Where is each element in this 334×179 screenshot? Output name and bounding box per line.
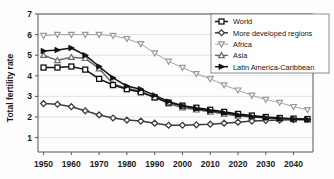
- data-point-marker: [166, 122, 172, 128]
- data-point-marker: [110, 115, 116, 121]
- chart-legend: WorldMore developed regionsAfricaAsiaLat…: [211, 14, 329, 73]
- data-point-marker: [68, 104, 74, 110]
- x-axis-tick-label: 1990: [145, 159, 164, 169]
- y-axis-tick-label: 1: [27, 133, 32, 143]
- data-point-marker: [138, 118, 144, 124]
- data-point-marker: [69, 64, 74, 69]
- legend-label: Africa: [233, 40, 253, 49]
- data-point-marker: [138, 42, 144, 47]
- data-point-marker: [221, 83, 227, 88]
- data-point-marker: [207, 77, 213, 82]
- data-point-marker: [180, 65, 186, 70]
- data-point-marker: [277, 100, 283, 105]
- data-point-marker: [124, 37, 130, 42]
- chart-canvas: 1234567 19501960197019801990200020102020…: [0, 0, 334, 179]
- data-point-marker: [263, 97, 269, 102]
- y-axis-tick-label: 5: [27, 50, 32, 60]
- x-axis-tick-label: 2020: [229, 159, 248, 169]
- data-point-marker: [235, 88, 241, 93]
- data-point-marker: [305, 108, 311, 113]
- data-point-marker: [83, 67, 88, 72]
- data-point-marker: [41, 101, 47, 107]
- data-point-marker: [55, 47, 61, 52]
- data-point-marker: [82, 108, 88, 114]
- data-point-marker: [152, 120, 158, 126]
- x-axis-ticks: 1950196019701980199020002010202020302040: [34, 152, 303, 169]
- legend-label: World: [233, 17, 252, 26]
- data-point-marker: [96, 32, 102, 37]
- data-point-marker: [219, 19, 224, 24]
- data-point-marker: [207, 121, 213, 127]
- legend-label: More developed regions: [233, 29, 313, 38]
- data-point-marker: [221, 120, 227, 126]
- data-point-marker: [55, 58, 61, 63]
- x-axis-tick-label: 2000: [173, 159, 192, 169]
- legend-label: Latin America-Caribbean: [233, 63, 314, 72]
- x-axis-tick-label: 2030: [256, 159, 275, 169]
- y-axis-ticks: 1234567: [27, 9, 38, 143]
- data-point-marker: [180, 122, 186, 128]
- y-axis-tick-label: 2: [27, 112, 32, 122]
- data-point-marker: [97, 76, 102, 81]
- data-point-marker: [166, 59, 172, 64]
- data-point-marker: [41, 65, 46, 70]
- data-point-marker: [193, 122, 199, 128]
- x-axis-tick-label: 1950: [34, 159, 53, 169]
- data-point-marker: [235, 119, 241, 125]
- data-point-marker: [41, 33, 47, 38]
- x-axis-tick-label: 1960: [62, 159, 81, 169]
- data-point-marker: [124, 117, 130, 123]
- y-axis-tick-label: 7: [27, 9, 32, 19]
- data-point-marker: [55, 65, 60, 70]
- data-point-marker: [82, 32, 88, 37]
- data-point-marker: [111, 83, 116, 88]
- data-point-marker: [69, 32, 75, 37]
- data-point-marker: [55, 32, 61, 37]
- data-point-marker: [55, 101, 61, 107]
- y-axis-tick-label: 6: [27, 30, 32, 40]
- legend-label: Asia: [233, 51, 248, 60]
- x-axis-tick-label: 1980: [117, 159, 136, 169]
- x-axis-tick-label: 2010: [201, 159, 220, 169]
- data-point-marker: [249, 93, 255, 98]
- data-point-marker: [291, 104, 297, 109]
- y-axis-tick-label: 3: [27, 91, 32, 101]
- data-point-marker: [110, 33, 116, 38]
- y-axis-tick-label: 4: [27, 71, 32, 81]
- y-axis-title: Total fertility rate: [5, 54, 15, 123]
- x-axis-tick-label: 2040: [284, 159, 303, 169]
- fertility-rate-chart: 1234567 19501960197019801990200020102020…: [0, 0, 334, 179]
- x-axis-tick-label: 1970: [90, 159, 109, 169]
